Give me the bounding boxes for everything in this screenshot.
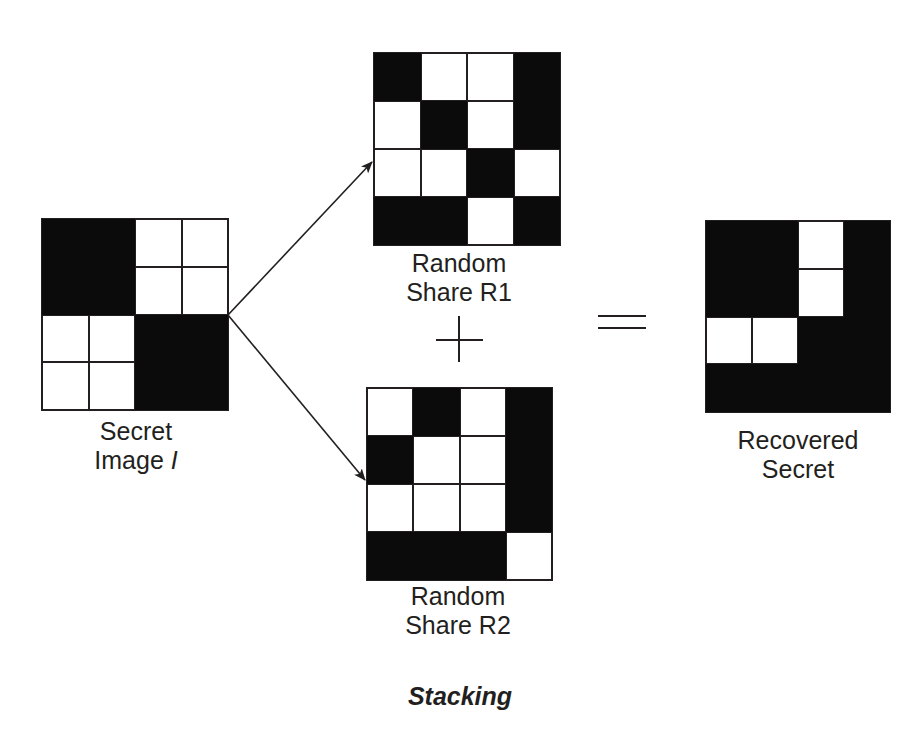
black-cell <box>182 362 229 410</box>
black-cell <box>135 362 182 410</box>
black-cell <box>182 315 229 363</box>
white-cell <box>421 149 468 197</box>
black-cell <box>514 197 561 245</box>
diagram-caption: Stacking <box>380 682 540 711</box>
black-cell <box>135 315 182 363</box>
white-cell <box>460 388 506 436</box>
white-cell <box>367 484 413 532</box>
arrow-to-share-r1 <box>228 162 372 315</box>
black-cell <box>844 364 890 412</box>
recovered-secret-label-line2: Secret <box>710 455 886 484</box>
white-cell <box>42 315 89 363</box>
black-cell <box>844 221 890 269</box>
white-cell <box>89 315 136 363</box>
black-cell <box>467 149 514 197</box>
black-cell <box>421 197 468 245</box>
white-cell <box>460 436 506 484</box>
white-cell <box>460 484 506 532</box>
plus-icon <box>436 316 483 362</box>
white-cell <box>798 221 844 269</box>
white-cell <box>752 317 798 365</box>
white-cell <box>374 101 421 149</box>
white-cell <box>135 267 182 315</box>
black-cell <box>367 436 413 484</box>
black-cell <box>844 317 890 365</box>
share-r1-label: Random Share R1 <box>376 249 542 307</box>
black-cell <box>421 101 468 149</box>
equals-icon <box>598 316 646 328</box>
black-cell <box>798 364 844 412</box>
black-cell <box>413 532 459 580</box>
secret-image-label-line2: Image I <box>55 446 217 475</box>
white-cell <box>42 362 89 410</box>
share-r2-label-line2: Share R2 <box>370 611 546 640</box>
arrow-to-share-r2 <box>228 315 365 480</box>
white-cell <box>467 53 514 101</box>
recovered-secret-label: Recovered Secret <box>710 426 886 484</box>
black-cell <box>42 219 89 267</box>
black-cell <box>798 317 844 365</box>
white-cell <box>135 219 182 267</box>
black-cell <box>367 532 413 580</box>
black-cell <box>752 364 798 412</box>
share-r2-label: Random Share R2 <box>370 582 546 640</box>
black-cell <box>752 221 798 269</box>
black-cell <box>42 267 89 315</box>
white-cell <box>467 197 514 245</box>
black-cell <box>506 388 552 436</box>
black-cell <box>706 364 752 412</box>
white-cell <box>413 484 459 532</box>
black-cell <box>374 197 421 245</box>
white-cell <box>506 532 552 580</box>
white-cell <box>374 149 421 197</box>
black-cell <box>460 532 506 580</box>
white-cell <box>182 219 229 267</box>
black-cell <box>374 53 421 101</box>
white-cell <box>421 53 468 101</box>
black-cell <box>514 53 561 101</box>
white-cell <box>89 362 136 410</box>
recovered-secret-label-line1: Recovered <box>710 426 886 455</box>
white-cell <box>413 436 459 484</box>
white-cell <box>514 149 561 197</box>
black-cell <box>89 267 136 315</box>
black-cell <box>706 269 752 317</box>
black-cell <box>506 436 552 484</box>
share-r1-label-line1: Random <box>376 249 542 278</box>
white-cell <box>706 317 752 365</box>
share-r1-label-line2: Share R1 <box>376 278 542 307</box>
white-cell <box>367 388 413 436</box>
black-cell <box>706 221 752 269</box>
black-cell <box>844 269 890 317</box>
white-cell <box>798 269 844 317</box>
white-cell <box>182 267 229 315</box>
black-cell <box>506 484 552 532</box>
secret-image-grid <box>41 218 229 411</box>
secret-image-label-line1: Secret <box>55 417 217 446</box>
black-cell <box>413 388 459 436</box>
black-cell <box>89 219 136 267</box>
share-r2-label-line1: Random <box>370 582 546 611</box>
recovered-secret-grid <box>705 220 891 413</box>
share-r1-grid <box>373 52 561 246</box>
share-r2-grid <box>366 387 553 581</box>
white-cell <box>467 101 514 149</box>
secret-image-variable: I <box>171 446 178 474</box>
black-cell <box>514 101 561 149</box>
secret-image-label: Secret Image I <box>55 417 217 475</box>
black-cell <box>752 269 798 317</box>
